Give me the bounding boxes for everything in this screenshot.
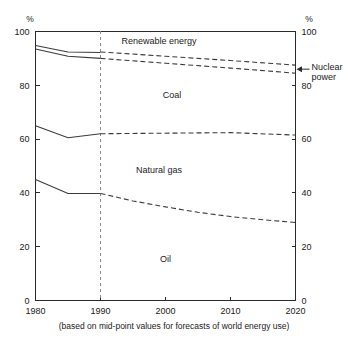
series-3 [36,45,296,65]
series-forecast-line [101,193,296,222]
series-history-line [36,179,101,193]
y-tick-label-left: 80 [19,81,29,91]
y-tick-label-right: 20 [302,242,312,252]
y-axis-right-unit: % [305,14,313,24]
y-tick-label-right: 40 [302,188,312,198]
nuclear-arrow-head [297,66,303,72]
nuclear-power-label-line1: Nuclear [312,62,343,72]
series-group [36,45,296,222]
band-label-renewable-energy: Renewable energy [121,36,197,46]
nuclear-power-annotation: Nuclearpower [297,62,343,82]
y-tick-label-right: 60 [302,134,312,144]
band-label-oil: Oil [160,254,171,264]
y-tick-label-left: 20 [19,242,29,252]
x-tick-label: 1980 [25,306,45,316]
y-tick-label-right: 100 [302,27,317,37]
y-tick-label-left: 40 [19,188,29,198]
series-history-line [36,49,101,58]
y-tick-label-right: 0 [302,296,307,306]
chart-canvas: 020406080100 020406080100 19801990200020… [0,0,348,349]
chart-caption: (based on mid-point values for forecasts… [59,321,290,331]
y-axis-left-unit: % [26,14,34,24]
y-tick-label-left: 100 [14,27,29,37]
y-tick-label-left: 0 [24,296,29,306]
x-tick-label: 1990 [90,306,110,316]
x-tick-label: 2020 [285,306,305,316]
x-tick-label: 2000 [155,306,175,316]
series-0 [36,179,296,222]
series-forecast-line [101,133,296,135]
x-tick-label: 2010 [220,306,240,316]
series-history-line [36,126,101,138]
band-label-natural-gas: Natural gas [136,165,183,175]
y-tick-label-right: 80 [302,81,312,91]
series-forecast-line [101,58,296,73]
nuclear-power-label-line2: power [312,72,337,82]
band-label-coal: Coal [163,90,182,100]
x-ticks-group: 19801990200020102020 [25,297,305,316]
series-forecast-line [101,52,296,65]
band-labels-group: Renewable energyCoalNatural gasOil [121,36,197,264]
energy-share-chart: 020406080100 020406080100 19801990200020… [0,0,348,349]
y-tick-label-left: 60 [19,134,29,144]
series-2 [36,49,296,73]
series-1 [36,126,296,138]
